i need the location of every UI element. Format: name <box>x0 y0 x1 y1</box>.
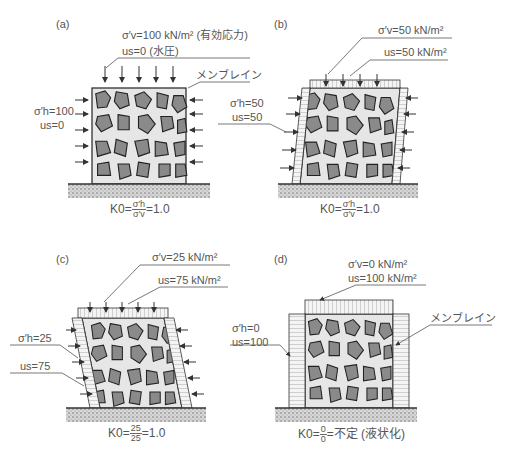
panel-a-sigma-h-label: σ′h=100 <box>34 105 74 117</box>
panel-a-pore-pressure-label: us=0 (水圧) <box>122 45 179 57</box>
panel-b-k0-formula: K0=σ′hσ′v=1.0 <box>320 200 380 219</box>
panel-c-tag: (c) <box>56 253 69 265</box>
panel-c-k0-formula: K0=2525=1.0 <box>108 424 165 443</box>
panel-d-k0-formula: K0=00=不定 (液状化) <box>298 424 405 444</box>
panel-d-membrane-label: メンブレイン <box>430 312 496 324</box>
panel-a-membrane-label: メンブレイン <box>196 69 262 81</box>
panel-d-sigma-v-label: σ′v=0 kN/m² <box>348 258 407 270</box>
panel-d-sigma-h-label: σ′h=0 <box>232 322 260 334</box>
panel-b-tag: (b) <box>274 18 287 30</box>
panel-c-pore-pressure-label: us=75 kN/m² <box>158 274 221 286</box>
panel-c-sigma-v-label: σ′v=25 kN/m² <box>152 251 217 263</box>
panel-d-tag: (d) <box>274 253 287 265</box>
panel-b-pore-pressure-label: us=50 kN/m² <box>384 46 447 58</box>
panel-a-tag: (a) <box>56 18 69 30</box>
panel-a-k0-formula: K0=σ′hσ′v=1.0 <box>110 200 170 219</box>
panel-b-u-side-label: us=50 <box>232 111 262 123</box>
panel-a-sigma-v-label: σ′v=100 kN/m² (有効応力) <box>122 29 248 41</box>
panel-b-sigma-h-label: σ′h=50 <box>230 97 264 109</box>
panel-d-graphic <box>230 285 492 422</box>
panel-c-u-side-label: us=75 <box>20 360 50 372</box>
panel-a-u-side-label: us=0 <box>40 119 64 131</box>
panel-c-sigma-h-label: σ′h=25 <box>18 332 52 344</box>
panel-d-u-side-label: us=100 <box>232 336 268 348</box>
panel-b-sigma-v-label: σ′v=50 kN/m² <box>378 24 443 36</box>
panel-d-pore-pressure-label: us=100 kN/m² <box>348 272 417 284</box>
